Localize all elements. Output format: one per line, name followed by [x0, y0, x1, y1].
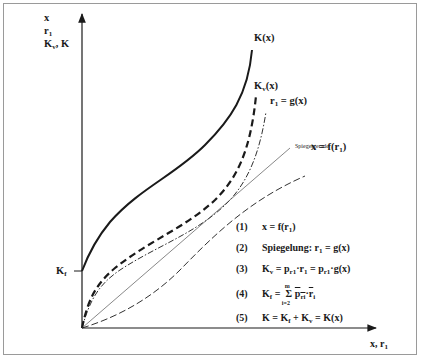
curve-k	[82, 50, 252, 271]
x-axis-label: x, r1	[370, 338, 388, 350]
curve-kv	[82, 96, 256, 328]
sum-symbol: mΣi=2	[283, 288, 295, 300]
mirror-line	[82, 148, 290, 328]
equation-4: (4)Kf = mΣi=2pri·ri	[236, 288, 315, 300]
y-axis-label-x: x	[44, 12, 49, 24]
curve-g-label: r1 = g(x)	[270, 95, 307, 107]
kf-tick-label: Kf	[56, 265, 67, 277]
curve-kv-label: Kv(x)	[254, 80, 278, 92]
y-axis-label-kv-k: Kv, K	[44, 38, 69, 50]
equation-2: (2)Spiegelung: r1 = g(x)	[236, 242, 350, 254]
plot-area	[0, 0, 424, 364]
curve-k-label: K(x)	[254, 32, 274, 44]
equation-3: (3)Kv = pr1·r1 = pr1·g(x)	[236, 263, 350, 275]
curve-f-label: x = f(r1)	[311, 141, 346, 153]
equation-1: (1)x = f(r1)	[236, 221, 296, 233]
equation-5: (5)K = Kf + Kv = K(x)	[236, 312, 343, 324]
y-axis-label-r1: r1	[44, 25, 52, 37]
